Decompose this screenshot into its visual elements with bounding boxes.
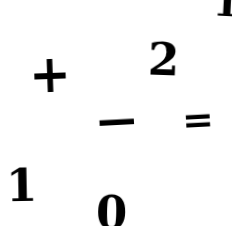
glyph-minus-sign: −	[93, 95, 142, 147]
glyph-plus-sign: +	[28, 47, 72, 100]
glyph-digit-two: 2	[147, 36, 180, 82]
glyph-digit-one-cropped: 1	[212, 0, 232, 23]
glyph-digit-one: 1	[6, 163, 38, 209]
glyph-digit-zero: 0	[96, 189, 128, 226]
handwritten-glyph-sheet: 1 + 2 − = 1 0	[0, 0, 232, 226]
glyph-equals-sign: =	[181, 100, 215, 140]
